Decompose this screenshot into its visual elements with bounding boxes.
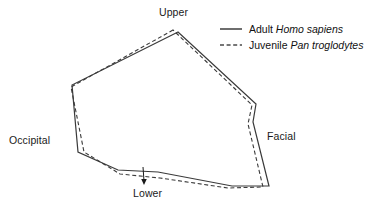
legend: Adult Homo sapiens Juvenile Pan troglody… (220, 22, 378, 54)
vertex-label-upper: Upper (159, 6, 188, 18)
legend-solid-line-icon (220, 24, 242, 34)
vertex-label-facial: Facial (267, 130, 296, 142)
legend-label-adult-species: Homo sapiens (276, 23, 343, 35)
legend-label-juvenile-prefix: Juvenile (249, 39, 290, 51)
legend-label-adult: Adult Homo sapiens (249, 23, 343, 35)
adult-homo-sapiens-polygon (72, 32, 269, 186)
legend-label-adult-prefix: Adult (249, 23, 276, 35)
legend-label-juvenile-species: Pan troglodytes (290, 39, 363, 51)
vertex-label-occipital: Occipital (9, 134, 50, 146)
vertex-label-lower: Lower (133, 187, 162, 199)
figure-container: Upper Occipital Facial Lower Adult Homo … (0, 0, 380, 212)
arrowhead-icon (141, 179, 147, 185)
legend-item-juvenile: Juvenile Pan troglodytes (220, 38, 378, 51)
legend-label-juvenile: Juvenile Pan troglodytes (249, 39, 363, 51)
legend-item-adult: Adult Homo sapiens (220, 22, 378, 35)
legend-dashed-line-icon (220, 40, 242, 50)
adult-outline (72, 32, 269, 186)
